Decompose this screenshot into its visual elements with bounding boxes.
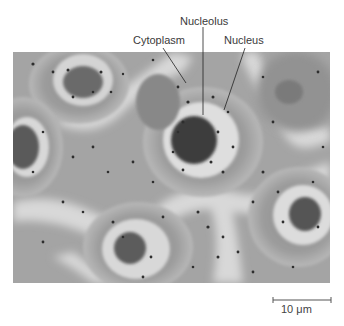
scale-bar-label: 10 μm: [281, 303, 312, 315]
label-cytoplasm: Cytoplasm: [133, 34, 185, 46]
label-nucleolus: Nucleolus: [180, 15, 228, 27]
label-nucleus: Nucleus: [224, 34, 264, 46]
micrograph-image: [13, 52, 330, 283]
